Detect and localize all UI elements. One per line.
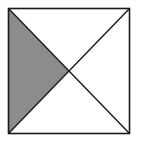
- shaded-left-triangle: [9, 9, 70, 134]
- square-diagonals-diagram: [0, 0, 141, 142]
